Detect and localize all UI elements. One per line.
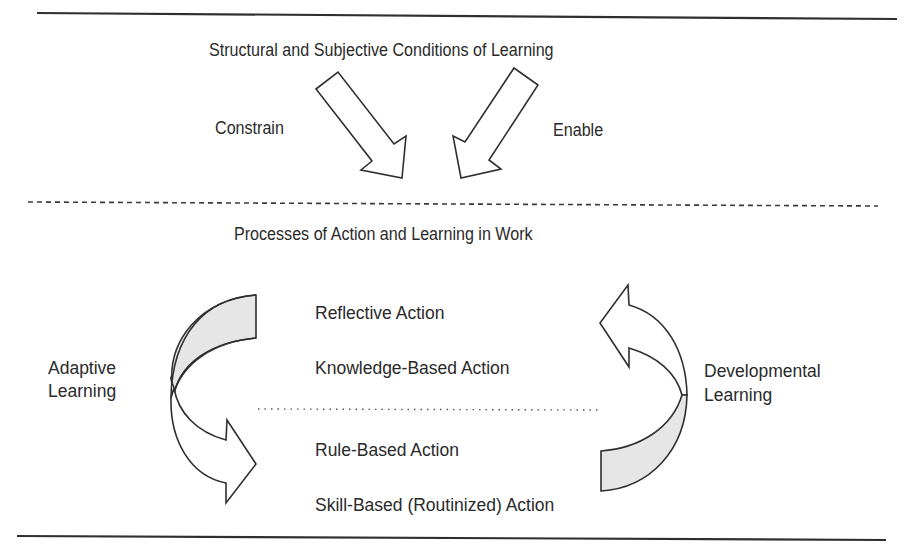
section-divider-dashed [28,202,878,206]
diagram-canvas [0,0,909,550]
adaptive-learning-label-line1: Adaptive [48,358,116,379]
enable-label: Enable [553,120,603,141]
action-level-reflective: Reflective Action [315,303,444,324]
adaptive-learning-arrow-icon [171,295,256,503]
bottom-rule [17,536,886,540]
adaptive-learning-label-line2: Learning [48,381,116,402]
action-level-skill-based: Skill-Based (Routinized) Action [315,495,554,516]
developmental-learning-label-line1: Developmental [704,361,821,382]
constrain-arrow-icon [316,72,406,178]
constrain-label: Constrain [215,118,284,139]
action-level-rule-based: Rule-Based Action [315,440,459,461]
action-level-divider-dotted [258,409,598,410]
conditions-title: Structural and Subjective Conditions of … [209,40,554,61]
developmental-learning-label-line2: Learning [704,385,772,406]
action-level-knowledge-based: Knowledge-Based Action [315,358,510,379]
processes-title: Processes of Action and Learning in Work [234,224,533,245]
top-rule [37,13,897,19]
developmental-learning-arrow-icon [600,285,687,491]
enable-arrow-icon [453,68,538,178]
